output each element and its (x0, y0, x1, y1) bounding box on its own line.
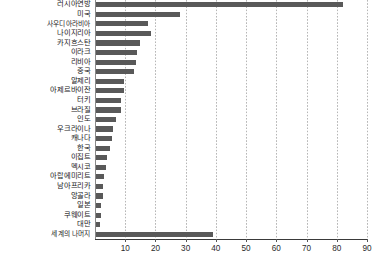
tick-mark-50 (246, 239, 247, 242)
bar (95, 40, 140, 45)
bar (95, 50, 137, 55)
category-label: 브라질 (71, 106, 91, 114)
tick-label: 20 (151, 244, 160, 254)
bar (95, 146, 110, 151)
bar (95, 98, 121, 103)
bar (95, 107, 121, 112)
bar (95, 232, 213, 237)
category-label: 알제리 (71, 77, 91, 85)
tick-mark-10 (125, 239, 126, 242)
gridline-50 (246, 0, 247, 239)
bar (95, 2, 343, 7)
tick-mark-70 (307, 239, 308, 242)
gridline-20 (155, 0, 156, 239)
value-axis-line (95, 239, 368, 240)
tick-mark-30 (186, 239, 187, 242)
bar (95, 60, 136, 65)
tick-label: 10 (121, 244, 130, 254)
tick-label: 70 (302, 244, 311, 254)
category-label: 카지흐스탄 (57, 39, 91, 47)
category-label: 세계의 나머지 (52, 230, 91, 238)
category-label: 앙골라 (71, 192, 91, 200)
bar (95, 69, 134, 74)
tick-label: 60 (272, 244, 281, 254)
category-label: 쿠웨이트 (64, 211, 91, 219)
tick-mark-90 (367, 239, 368, 242)
gridline-40 (216, 0, 217, 239)
gridline-90 (367, 0, 368, 239)
bar (95, 174, 104, 179)
bar (95, 31, 151, 36)
category-label: 이라크 (71, 48, 91, 56)
bar (95, 126, 113, 131)
gridline-80 (337, 0, 338, 239)
category-label: 미국 (77, 10, 91, 18)
category-label: 러시아연방 (57, 0, 91, 8)
bar (95, 136, 112, 141)
category-label: 캐나다 (71, 134, 91, 142)
tick-mark-20 (155, 239, 156, 242)
tick-mark-60 (276, 239, 277, 242)
category-label: 한국 (77, 144, 91, 152)
bar (95, 79, 124, 84)
category-axis-labels: 러시아연방미국사우디아라비아나이지리아카지흐스탄이라크리비아중국알제리아제르바이… (0, 0, 94, 239)
tick-mark-40 (216, 239, 217, 242)
gridline-30 (186, 0, 187, 239)
category-label: 인도 (77, 115, 91, 123)
bar (95, 21, 148, 26)
category-label: 남아프리카 (57, 182, 91, 190)
tick-label: 80 (332, 244, 341, 254)
bar (95, 165, 106, 170)
tick-label: 40 (211, 244, 220, 254)
tick-mark-80 (337, 239, 338, 242)
category-label: 나이지리아 (57, 29, 91, 37)
category-label: 중국 (77, 67, 91, 75)
category-label: 일본 (77, 201, 91, 209)
category-label: 터키 (77, 96, 91, 104)
gridline-70 (307, 0, 308, 239)
tick-label: 90 (362, 244, 371, 254)
plot-area (95, 0, 367, 239)
tick-label: 30 (181, 244, 190, 254)
category-label: 리비아 (71, 58, 91, 66)
category-label: 사우디아라비아 (47, 20, 91, 28)
bar-chart: 러시아연방미국사우디아라비아나이지리아카지흐스탄이라크리비아중국알제리아제르바이… (0, 0, 377, 267)
category-label: 아제르바이잔 (50, 86, 91, 94)
category-label: 멕시코 (71, 163, 91, 171)
bar (95, 88, 124, 93)
gridline-60 (276, 0, 277, 239)
category-label: 아랍에미리트 (50, 172, 91, 180)
category-label: 이집트 (71, 153, 91, 161)
bar (95, 155, 107, 160)
category-label: 우크라이나 (57, 125, 91, 133)
bar (95, 117, 116, 122)
bar (95, 12, 180, 17)
tick-label: 50 (242, 244, 251, 254)
category-label: 대만 (77, 220, 91, 228)
value-axis-baseline (95, 0, 96, 240)
